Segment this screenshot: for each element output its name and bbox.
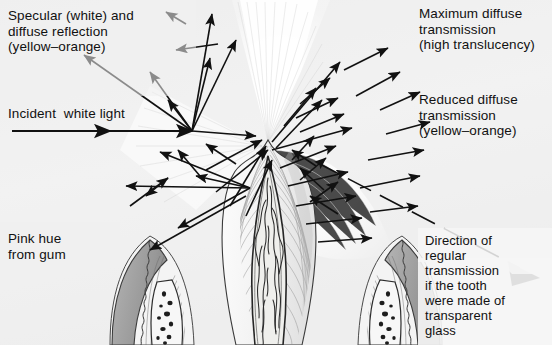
label-pink-hue-from-gum: Pink hue from gum — [8, 231, 66, 262]
figure-canvas: Specular (white) and diffuse reflection … — [0, 0, 552, 345]
label-maximum-diffuse-transmission: Maximum diffuse transmission (high trans… — [419, 6, 535, 53]
label-reduced-diffuse-transmission: Reduced diffuse transmission (yellow–ora… — [419, 92, 518, 139]
label-specular-reflection: Specular (white) and diffuse reflection … — [8, 8, 134, 55]
label-regular-transmission: Direction of regular transmission if the… — [425, 233, 505, 338]
label-incident-white-light: Incident white light — [8, 106, 125, 122]
